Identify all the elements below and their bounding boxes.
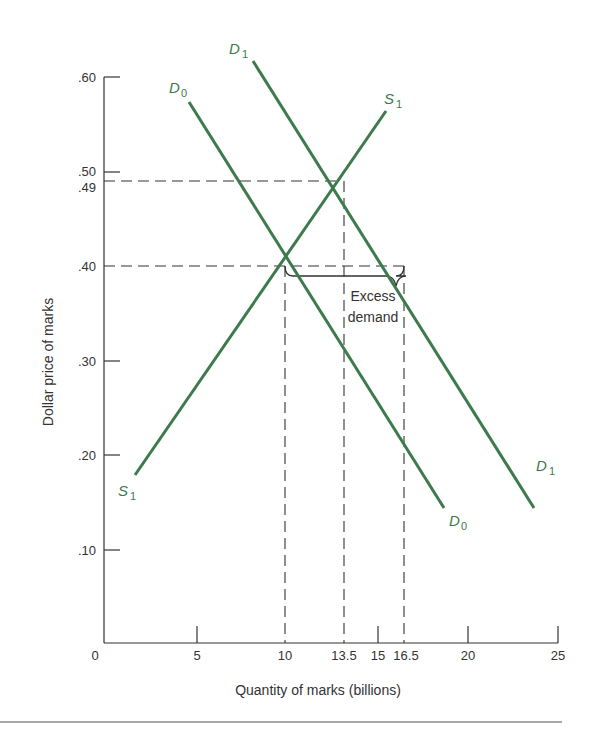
reference-lines	[104, 181, 404, 643]
svg-text:1: 1	[549, 465, 555, 477]
curve-s1	[135, 111, 386, 475]
y-label-20: .20	[78, 448, 96, 463]
x-label-0: 0	[91, 648, 98, 663]
x-label-135: 13.5	[331, 648, 356, 663]
axes	[104, 77, 558, 643]
y-tick-labels: .60 .50 .49 .40 .30 .20 .10	[78, 70, 96, 558]
y-label-30: .30	[78, 354, 96, 369]
excess-demand-label-line2: demand	[348, 309, 399, 325]
x-label-15: 15	[371, 648, 385, 663]
svg-text:D: D	[449, 512, 460, 529]
x-label-165: 16.5	[393, 648, 418, 663]
svg-text:D: D	[169, 79, 180, 96]
svg-text:S: S	[384, 90, 394, 107]
curve-label-d1-bottom: D 1	[536, 457, 555, 477]
svg-text:0: 0	[181, 87, 187, 99]
svg-text:D: D	[536, 457, 547, 474]
x-label-25: 25	[551, 648, 565, 663]
svg-text:S: S	[118, 482, 128, 499]
y-label-60: .60	[78, 70, 96, 85]
y-label-40: .40	[78, 259, 96, 274]
y-axis-title: Dollar price of marks	[40, 298, 56, 426]
x-label-20: 20	[461, 648, 475, 663]
svg-text:D: D	[229, 40, 240, 57]
x-label-10: 10	[278, 648, 292, 663]
y-label-50: .50	[78, 164, 96, 179]
x-label-5: 5	[193, 648, 200, 663]
excess-demand-label-line1: Excess	[350, 288, 395, 304]
curve-label-s1-bottom: S 1	[118, 482, 136, 502]
x-tick-labels: 0 5 10 13.5 15 16.5 20 25	[91, 648, 565, 663]
curve-label-d0-bottom: D 0	[449, 512, 467, 532]
svg-text:0: 0	[461, 520, 467, 532]
x-axis-title: Quantity of marks (billions)	[235, 682, 401, 698]
curve-d1	[253, 61, 534, 508]
svg-text:1: 1	[396, 98, 402, 110]
curves	[135, 61, 534, 508]
svg-text:1: 1	[242, 48, 248, 60]
y-label-10: .10	[78, 543, 96, 558]
svg-text:1: 1	[130, 490, 136, 502]
curve-label-d1-top: D 1	[229, 40, 248, 60]
curve-label-d0-top: D 0	[169, 79, 187, 99]
y-label-49: .49	[78, 180, 96, 195]
curve-label-s1-top: S 1	[384, 90, 402, 110]
chart: .60 .50 .49 .40 .30 .20 .10 0 5 10 13.5 …	[0, 0, 592, 737]
